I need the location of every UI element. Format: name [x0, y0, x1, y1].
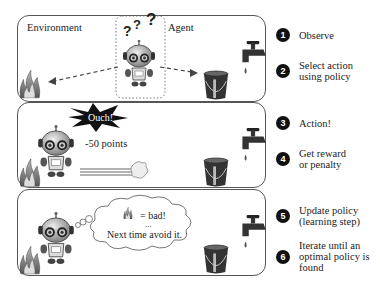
fire-icon	[20, 246, 40, 274]
bucket-icon	[204, 71, 228, 99]
tap-icon	[242, 215, 265, 248]
arrow-head-left	[48, 77, 56, 85]
penalty-text: -50 points	[85, 138, 127, 149]
step-number-badge: 1	[276, 28, 290, 42]
step-3: 3 Action!	[276, 116, 331, 130]
environment-label: Environment	[27, 22, 82, 33]
thought-bubble	[76, 195, 192, 250]
arrow-head-right	[190, 69, 198, 77]
step-text: Select action using policy	[299, 60, 353, 82]
question-mark: ?	[146, 14, 156, 25]
question-mark: ?	[133, 19, 141, 30]
ouch-text: Ouch!	[88, 112, 113, 123]
motion-trail	[80, 162, 148, 178]
tap-icon	[242, 41, 265, 74]
step-text: Get reward or penalty	[299, 148, 346, 170]
step-number-badge: 6	[276, 250, 290, 264]
fire-icon	[20, 159, 40, 187]
step-text: Action!	[299, 118, 331, 129]
arrow-to-fire	[54, 67, 118, 81]
step-4: 4 Get reward or penalty	[276, 148, 346, 170]
step-6: 6 Iterate until an optimal policy is fou…	[276, 240, 370, 273]
step-number-badge: 5	[276, 209, 290, 223]
step-1: 1 Observe	[276, 28, 334, 42]
step-number-badge: 4	[276, 152, 290, 166]
tap-icon	[242, 128, 265, 161]
bucket-icon	[204, 158, 228, 186]
thought-line: Next time avoid it.	[107, 229, 182, 240]
step-number-badge: 3	[276, 116, 290, 130]
steps-list: 1 Observe 2 Select action using policy 3…	[276, 0, 380, 292]
agent-label: Agent	[168, 22, 194, 33]
fire-icon	[20, 70, 40, 98]
robot-hurt-icon	[38, 125, 74, 177]
robot-thinking-icon	[38, 212, 74, 264]
step-2: 2 Select action using policy	[276, 60, 353, 82]
robot-agent-icon	[123, 40, 155, 87]
step-text: Observe	[299, 30, 334, 41]
step-text: Update policy (learning step)	[299, 205, 360, 227]
step-text: Iterate until an optimal policy is found	[299, 240, 370, 273]
question-mark: ?	[123, 26, 132, 37]
bucket-icon	[204, 245, 228, 273]
thought-equals-bad: = bad!	[140, 210, 166, 221]
step-number-badge: 2	[276, 64, 290, 78]
step-5: 5 Update policy (learning step)	[276, 205, 360, 227]
